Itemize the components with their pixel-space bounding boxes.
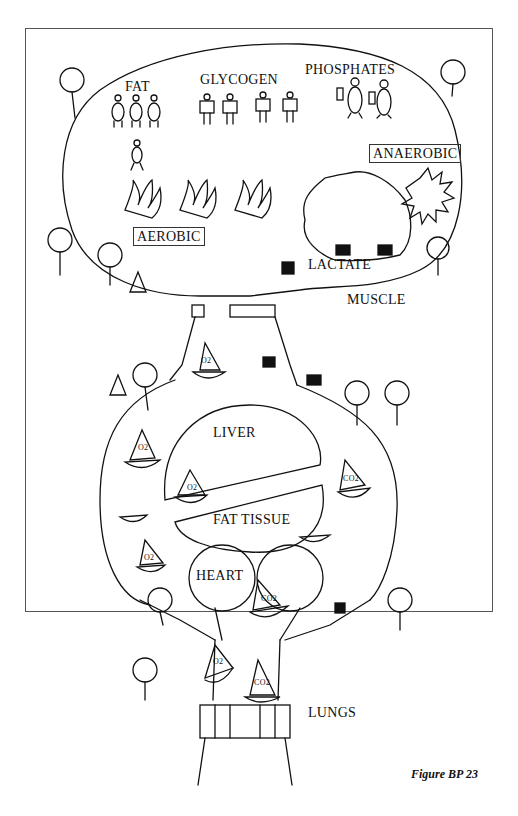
boat-o2-label: O2 bbox=[201, 356, 211, 365]
label-muscle: MUSCLE bbox=[347, 292, 406, 308]
blood-vessel bbox=[170, 305, 297, 385]
label-heart: HEART bbox=[196, 568, 243, 584]
label-phosphates: PHOSPHATES bbox=[305, 62, 395, 78]
anaerobic-loop bbox=[304, 172, 411, 261]
label-anaerobic: ANAEROBIC bbox=[369, 144, 461, 163]
label-fat: FAT bbox=[125, 79, 150, 95]
label-glycogen: GLYCOGEN bbox=[200, 72, 278, 88]
label-lungs: LUNGS bbox=[308, 705, 356, 721]
label-aerobic: AEROBIC bbox=[133, 227, 205, 246]
energy-system-illustration bbox=[0, 0, 518, 816]
boat-o2-label: O2 bbox=[213, 657, 223, 666]
boat-o2-label: O2 bbox=[138, 443, 148, 452]
stick-figures bbox=[112, 78, 392, 613]
boat-co2-label: CO2 bbox=[343, 474, 359, 483]
figure-caption: Figure BP 23 bbox=[411, 767, 478, 782]
label-liver: LIVER bbox=[213, 425, 256, 441]
boat-co2-label: CO2 bbox=[254, 678, 270, 687]
boat-co2-label: CO2 bbox=[261, 594, 277, 603]
label-fat-tissue: FAT TISSUE bbox=[213, 512, 290, 528]
boat-o2-label: O2 bbox=[187, 483, 197, 492]
fire-icons bbox=[125, 180, 271, 218]
boat-o2-label: O2 bbox=[144, 553, 154, 562]
label-lactate: LACTATE bbox=[308, 257, 371, 273]
